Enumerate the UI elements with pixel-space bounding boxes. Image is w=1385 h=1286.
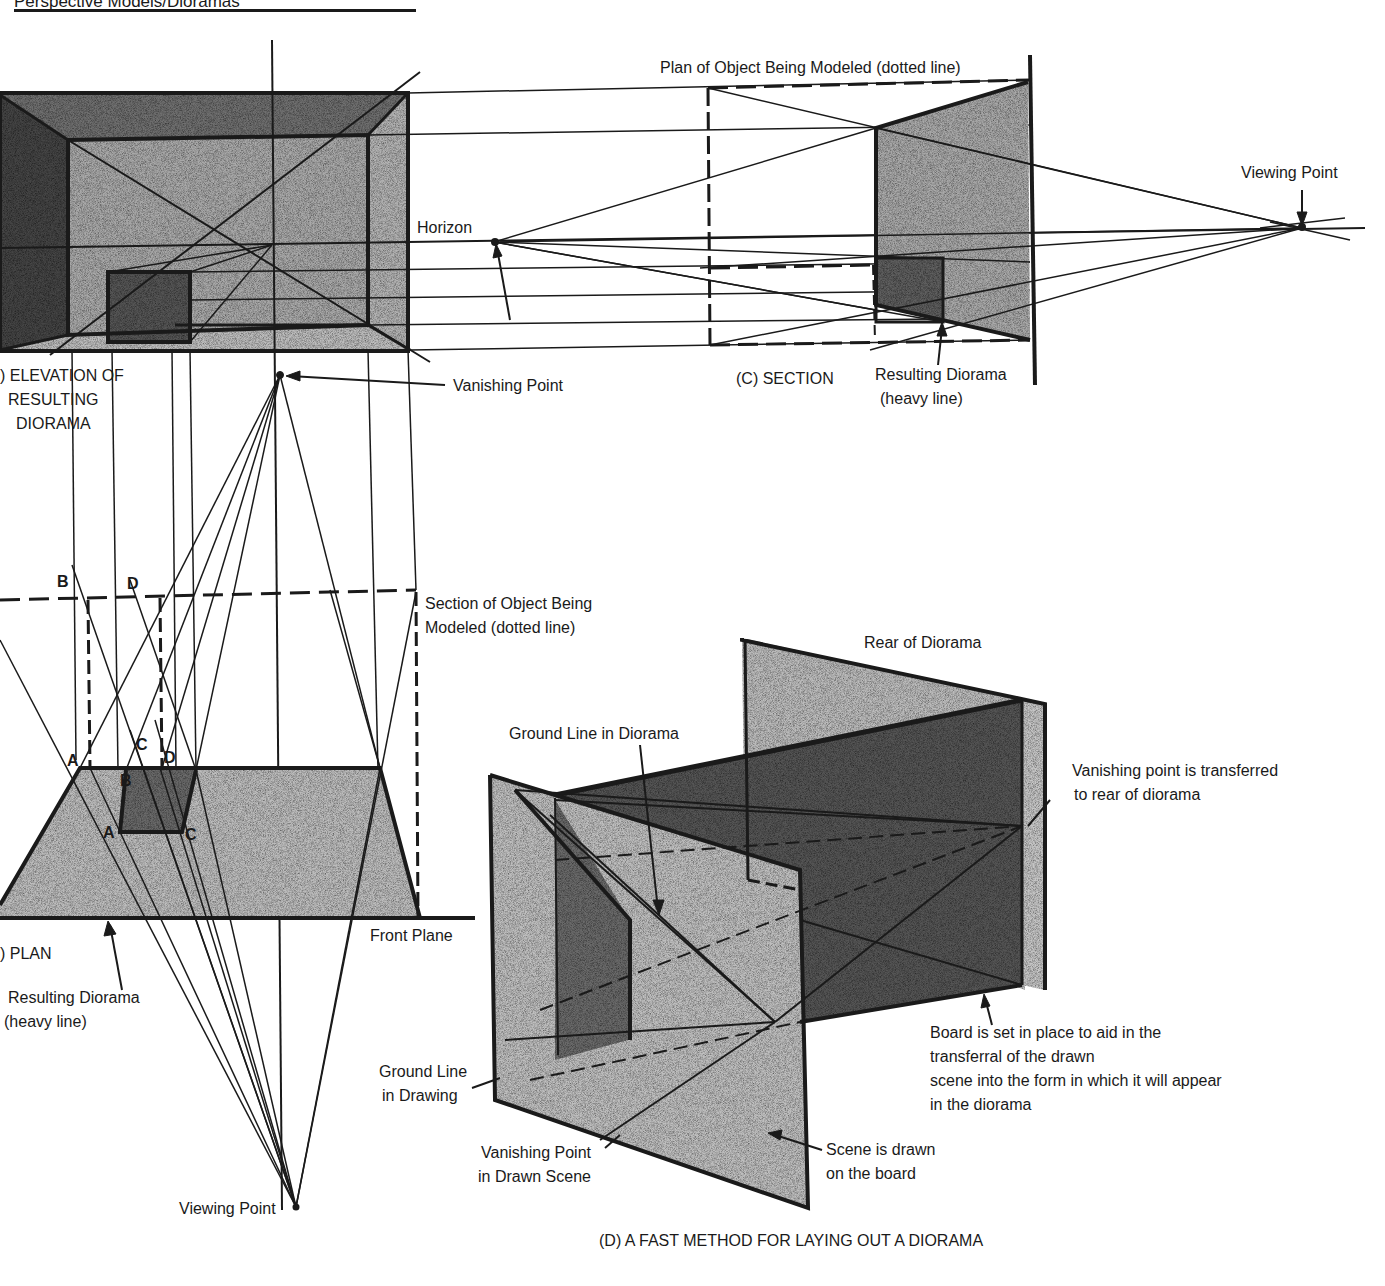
panel-d-caption: (D) A FAST METHOD FOR LAYING OUT A DIORA… [599, 1229, 983, 1253]
scene-drawn-label-line1: Scene is drawn [826, 1138, 935, 1162]
vp-drawn-scene-label-line1: Vanishing Point [481, 1141, 591, 1165]
horizon-label: Horizon [417, 216, 472, 240]
vp-drawn-scene-label-line2: in Drawn Scene [478, 1165, 591, 1189]
point-label-c-upper: C [136, 733, 148, 757]
rear-of-diorama-label: Rear of Diorama [864, 631, 981, 655]
point-label-a-upper: A [67, 749, 79, 773]
point-label-top-b: B [57, 570, 69, 594]
vp-transferred-label-line1: Vanishing point is transferred [1072, 759, 1278, 783]
horizon-vanishing-dot [491, 238, 499, 246]
ground-line-drawing-label-line2: in Drawing [382, 1084, 458, 1108]
viewing-point-marker-plan [293, 1204, 300, 1211]
section-resulting-label-line1: Resulting Diorama [875, 363, 1007, 387]
panel-c-caption: (C) SECTION [736, 367, 834, 391]
ground-line-drawing-label-line1: Ground Line [379, 1060, 467, 1084]
plan-resulting-label-line2: (heavy line) [4, 1010, 87, 1034]
section-resulting-label-line2: (heavy line) [880, 387, 963, 411]
section-viewing-point-label: Viewing Point [1241, 161, 1338, 185]
board-label-line1: Board is set in place to aid in the [930, 1021, 1161, 1045]
plan-viewing-point-label: Viewing Point [179, 1197, 276, 1221]
board-label-line3: scene into the form in which it will app… [930, 1069, 1222, 1093]
point-label-d-upper: D [164, 746, 176, 770]
panel-c-section [493, 55, 1350, 385]
point-label-a-lower: A [103, 821, 115, 845]
board-label-line2: transferral of the drawn [930, 1045, 1095, 1069]
vanishing-point-label: Vanishing Point [453, 374, 563, 398]
plan-resulting-label-line1: Resulting Diorama [8, 986, 140, 1010]
section-object-label-line2: Modeled (dotted line) [425, 616, 575, 640]
point-label-top-d: D [127, 572, 139, 596]
front-plane-label: Front Plane [370, 924, 453, 948]
diorama-perspective-diagram [0, 0, 1385, 1286]
vp-transferred-label-line2: to rear of diorama [1074, 783, 1200, 807]
panel-b-caption: ) PLAN [0, 942, 52, 966]
ground-line-diorama-label: Ground Line in Diorama [509, 722, 679, 746]
panel-a-caption-line3: DIORAMA [16, 412, 91, 436]
section-object-label-line1: Section of Object Being [425, 592, 592, 616]
panel-a-caption-line2: RESULTING [8, 388, 98, 412]
viewing-point-marker-section [1298, 223, 1306, 231]
vanishing-point-marker [277, 371, 446, 385]
scene-drawn-label-line2: on the board [826, 1162, 916, 1186]
board-label-line4: in the diorama [930, 1093, 1031, 1117]
point-label-c-lower: C [185, 823, 197, 847]
point-label-b-lower: B [120, 769, 132, 793]
panel-a-caption-line1: ) ELEVATION OF [0, 364, 124, 388]
plan-of-object-label: Plan of Object Being Modeled (dotted lin… [660, 56, 961, 80]
